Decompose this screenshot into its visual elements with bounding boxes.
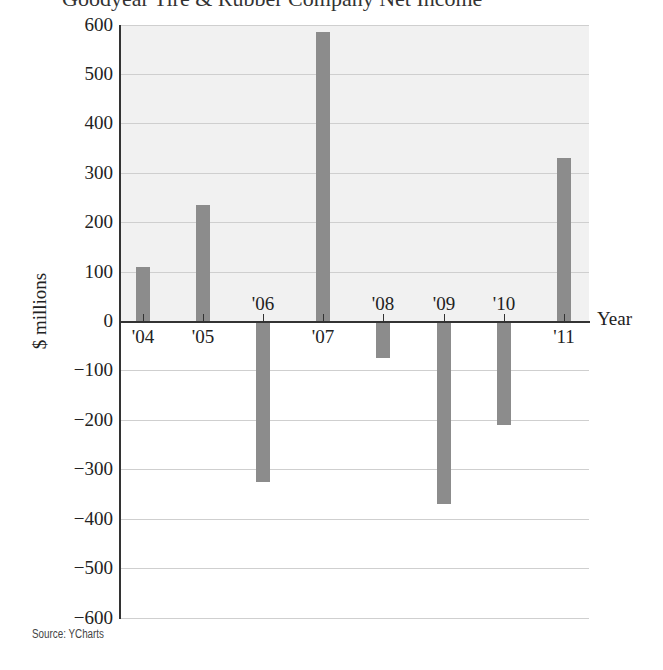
source-note: Source: YCharts (32, 627, 104, 641)
chart-title: Goodyear Tire & Rubber Company Net Incom… (62, 0, 482, 12)
bar-y08 (376, 321, 390, 358)
gridline (119, 123, 589, 124)
gridline (119, 272, 589, 273)
y-tick-label: 400 (33, 113, 113, 132)
y-tick-label: −200 (33, 410, 113, 429)
x-tick-mark (323, 314, 324, 321)
x-tick-mark (564, 314, 565, 321)
gridline (119, 568, 589, 569)
gridline (119, 519, 589, 520)
gridline (119, 74, 589, 75)
x-axis-line (119, 321, 590, 323)
x-tick-mark (203, 314, 204, 321)
x-tick-mark (444, 314, 445, 321)
x-tick-label: '07 (303, 327, 343, 346)
x-tick-label: '05 (183, 327, 223, 346)
x-tick-label: '10 (484, 294, 524, 313)
y-tick-label: −500 (33, 558, 113, 577)
y-tick-label: 500 (33, 64, 113, 83)
gridline (119, 420, 589, 421)
y-tick-label: −600 (33, 608, 113, 627)
x-tick-label: '06 (243, 294, 283, 313)
x-tick-mark (263, 314, 264, 321)
x-axis-title: Year (597, 308, 632, 330)
bar-y07 (316, 32, 330, 321)
x-tick-label: '11 (544, 327, 584, 346)
gridline (119, 618, 589, 619)
x-tick-label: '04 (123, 327, 163, 346)
y-tick-label: 200 (33, 212, 113, 231)
y-axis-title: $ millions (29, 266, 51, 356)
bar-y06 (256, 321, 270, 482)
gridline (119, 370, 589, 371)
x-tick-mark (383, 314, 384, 321)
bar-y11 (557, 158, 571, 321)
bar-y09 (437, 321, 451, 504)
y-tick-label: −300 (33, 459, 113, 478)
bar-y10 (497, 321, 511, 425)
gridline (119, 25, 589, 26)
gridline (119, 173, 589, 174)
gridline (119, 469, 589, 470)
bar-y04 (136, 267, 150, 321)
gridline (119, 222, 589, 223)
bar-y05 (196, 205, 210, 321)
y-tick-label: −400 (33, 509, 113, 528)
x-tick-mark (504, 314, 505, 321)
y-tick-label: −100 (33, 360, 113, 379)
x-tick-label: '09 (424, 294, 464, 313)
y-tick-label: 300 (33, 163, 113, 182)
x-tick-label: '08 (363, 294, 403, 313)
x-tick-mark (143, 314, 144, 321)
y-tick-label: 600 (33, 15, 113, 34)
